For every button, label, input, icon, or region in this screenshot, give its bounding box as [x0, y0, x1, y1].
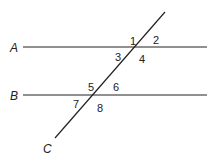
- angle-label-7: 7: [73, 98, 79, 110]
- angle-label-3: 3: [115, 51, 121, 63]
- angle-label-4: 4: [139, 53, 145, 65]
- angle-label-1: 1: [130, 35, 136, 47]
- angle-label-8: 8: [97, 102, 103, 114]
- angle-label-2: 2: [153, 34, 159, 46]
- transversal-c: [55, 12, 165, 138]
- line-label-c: C: [43, 142, 52, 156]
- angle-label-6: 6: [113, 81, 119, 93]
- angle-label-5: 5: [88, 81, 94, 93]
- parallel-lines-diagram: A B C 1 2 3 4 5 6 7 8: [0, 0, 217, 161]
- line-label-b: B: [10, 89, 18, 103]
- line-label-a: A: [9, 41, 18, 55]
